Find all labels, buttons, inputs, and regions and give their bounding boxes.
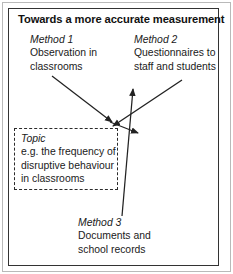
topic-text: Topic e.g. the frequency of disruptive b… (21, 132, 125, 186)
topic-line-1: e.g. the frequency of (21, 145, 125, 158)
method-3-heading: Method 3 (78, 216, 151, 229)
topic-line-2: disruptive behaviour (21, 159, 125, 172)
method-2-heading: Method 2 (134, 33, 216, 46)
method-1-line-2: classrooms (30, 60, 97, 73)
page-title: Towards a more accurate measurement (18, 13, 216, 25)
method-3-line-2: school records (78, 243, 151, 256)
method-3-line-1: Documents and (78, 229, 151, 242)
method-1-heading: Method 1 (30, 33, 97, 46)
method-3-label: Method 3 Documents and school records (78, 216, 151, 256)
topic-line-3: in classrooms (21, 172, 125, 185)
figure-container: Towards a more accurate measurement Meth… (0, 0, 233, 274)
method-1-line-1: Observation in (30, 46, 97, 59)
method-2-line-2: staff and students (134, 60, 216, 73)
method-2-label: Method 2 Questionnaires to staff and stu… (134, 33, 216, 73)
method-2-line-1: Questionnaires to (134, 46, 216, 59)
method-1-label: Method 1 Observation in classrooms (30, 33, 97, 73)
topic-heading: Topic (21, 132, 125, 145)
